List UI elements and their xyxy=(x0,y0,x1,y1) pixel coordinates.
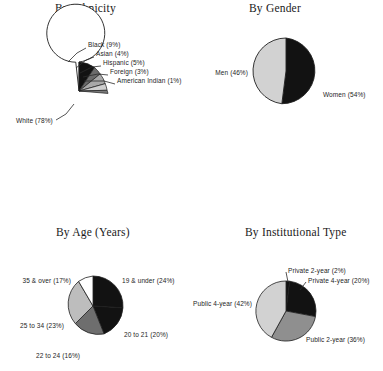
chart-title-age: By Age (Years) xyxy=(56,226,130,238)
pie-gender xyxy=(252,37,320,105)
pie-slice-women xyxy=(282,38,315,104)
pie-chart-figure: By Ethnicity Black (9%) Asian (4%) Hispa… xyxy=(0,0,383,371)
pie-slice-19-and-under xyxy=(93,276,123,308)
pie-label-men: Men (46%) xyxy=(196,69,248,76)
chart-title-gender: By Gender xyxy=(249,2,301,14)
pie-label-25-to-34: 25 to 34 (23%) xyxy=(2,322,64,329)
pie-label-22-to-24: 22 to 24 (16%) xyxy=(36,352,80,359)
pie-label-19-and-under: 19 & under (24%) xyxy=(122,277,175,284)
leader-lines-ethnicity xyxy=(0,0,192,186)
pie-age xyxy=(62,275,124,337)
pie-label-20-to-21: 20 to 21 (20%) xyxy=(124,331,168,338)
pie-label-women: Women (54%) xyxy=(323,91,366,98)
pie-slice-men xyxy=(253,38,286,104)
pie-label-35-and-over: 35 & over (17%) xyxy=(3,277,71,284)
leader-lines-institutional xyxy=(192,186,383,371)
